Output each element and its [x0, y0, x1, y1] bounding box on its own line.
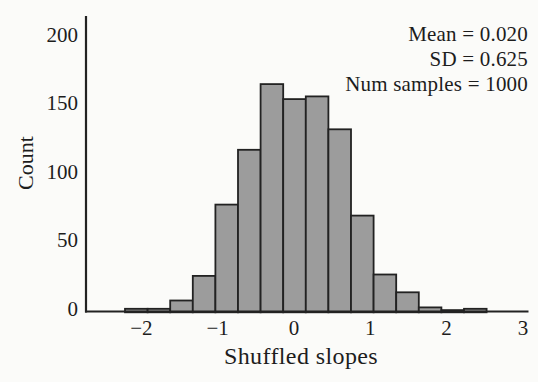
x-tick-label: 0 [289, 316, 300, 340]
histogram-bar [374, 275, 397, 313]
y-tick-label: 200 [47, 23, 79, 47]
histogram-bar [193, 276, 216, 312]
histogram-figure: 050100150200−2−10123 Count Shuffled slop… [0, 0, 538, 382]
histogram-bar [306, 96, 329, 312]
y-tick-label: 150 [47, 91, 79, 115]
y-axis-title: Count [13, 136, 39, 190]
histogram-bar [328, 129, 351, 312]
histogram-bar [261, 84, 284, 312]
x-tick-label: −2 [130, 316, 152, 340]
y-tick-label: 100 [47, 160, 79, 184]
histogram-bar [351, 216, 374, 313]
num-samples-annotation: Num samples = 1000 [345, 72, 528, 97]
x-tick-label: 2 [441, 316, 452, 340]
x-tick-label: 3 [518, 316, 529, 340]
y-tick-label: 50 [57, 228, 78, 252]
y-tick-label: 0 [68, 297, 79, 321]
histogram-bar [215, 205, 238, 313]
stats-annotation-block: Mean = 0.020 SD = 0.625 Num samples = 10… [345, 22, 528, 97]
x-tick-label: −1 [207, 316, 229, 340]
histogram-bar [283, 99, 306, 312]
histogram-bar [238, 150, 261, 312]
histogram-bar [396, 292, 419, 312]
x-axis-title: Shuffled slopes [224, 343, 378, 370]
x-tick-label: 1 [365, 316, 376, 340]
mean-annotation: Mean = 0.020 [345, 22, 528, 47]
sd-annotation: SD = 0.625 [345, 47, 528, 72]
